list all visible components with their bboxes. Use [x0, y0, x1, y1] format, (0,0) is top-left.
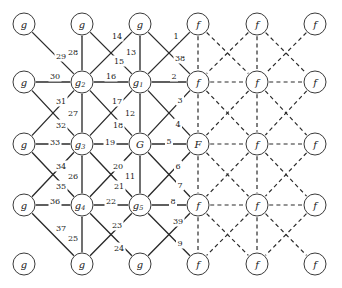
graph-node-G[interactable]: G [129, 133, 151, 155]
edge-label-layer: 2138345678939111213141516171819202122232… [49, 31, 187, 254]
edge-label: 26 [68, 172, 78, 181]
graph-node-g[interactable]: g [71, 13, 93, 35]
graph-node-f[interactable]: f [187, 13, 209, 35]
edge-label: 17 [112, 97, 122, 106]
edge-label: 27 [68, 109, 78, 118]
edge-label: 36 [50, 197, 60, 206]
graph-node-f[interactable]: f [304, 13, 326, 35]
edge-label: 15 [114, 57, 124, 66]
graph-node-f[interactable]: f [187, 253, 209, 275]
graph-figure: gggfffgg2g1fffgg3GFffgg4g5fffgggfff 2138… [0, 0, 342, 288]
edge-label: 32 [56, 121, 66, 130]
graph-node-g[interactable]: g1 [129, 71, 151, 93]
graph-node-f[interactable]: f [187, 194, 209, 216]
edge-label: 28 [68, 48, 78, 57]
edge-label: 5 [166, 137, 171, 146]
edge-label: 8 [170, 197, 175, 206]
graph-node-f[interactable]: f [246, 13, 268, 35]
node-label: g [21, 19, 27, 30]
graph-node-g[interactable]: g [129, 13, 151, 35]
edge-label: 38 [175, 54, 185, 63]
node-label: F [194, 139, 203, 150]
edge-label: 9 [177, 239, 182, 248]
edge-label: 2 [171, 72, 176, 81]
node-label: g [21, 259, 27, 270]
edge-label: 20 [113, 162, 123, 171]
graph-node-g[interactable]: g [13, 13, 35, 35]
edge-label: 35 [56, 182, 66, 191]
node-label: g [21, 139, 27, 150]
graph-node-g[interactable]: g5 [129, 194, 151, 216]
node-label: g [79, 259, 85, 270]
graph-node-g[interactable]: g [13, 71, 35, 93]
graph-node-f[interactable]: f [246, 71, 268, 93]
edge-label: 13 [126, 48, 136, 57]
edge-label: 1 [173, 32, 178, 41]
graph-node-g[interactable]: g4 [71, 194, 93, 216]
edge-label: 19 [105, 138, 115, 147]
graph-node-f[interactable]: f [246, 194, 268, 216]
edge-label: 23 [112, 221, 122, 230]
graph-node-f[interactable]: f [304, 194, 326, 216]
graph-node-f[interactable]: f [246, 253, 268, 275]
node-label: g [21, 200, 27, 211]
edge-label: 21 [114, 182, 124, 191]
graph-node-F[interactable]: F [187, 133, 209, 155]
graph-node-f[interactable]: f [304, 253, 326, 275]
node-label: g [137, 259, 143, 270]
graph-node-f[interactable]: f [304, 133, 326, 155]
edge-label: 34 [56, 162, 66, 171]
graph-node-g[interactable]: g [71, 253, 93, 275]
edge-label: 18 [113, 121, 123, 130]
edge-label: 12 [125, 109, 135, 118]
edge-label: 29 [56, 52, 66, 61]
node-label: g [21, 77, 27, 88]
node-label: g [137, 19, 143, 30]
edge-label: 22 [106, 197, 116, 206]
edge-label: 4 [175, 120, 180, 129]
edge-label: 39 [173, 217, 183, 226]
edge-label: 37 [56, 224, 66, 233]
graph-node-f[interactable]: f [304, 71, 326, 93]
edge-label: 25 [68, 234, 78, 243]
edge-label: 33 [50, 138, 60, 147]
edge-label: 6 [175, 162, 180, 171]
graph-node-g[interactable]: g2 [71, 71, 93, 93]
graph-node-g[interactable]: g [13, 133, 35, 155]
graph-node-g[interactable]: g3 [71, 133, 93, 155]
graph-node-f[interactable]: f [187, 71, 209, 93]
node-label: g [79, 19, 85, 30]
edge-label: 14 [112, 32, 122, 41]
edge-label: 7 [177, 181, 182, 190]
edge-label: 31 [56, 97, 66, 106]
edge-label: 16 [106, 72, 116, 81]
node-label: G [136, 139, 144, 150]
edge-label: 30 [50, 72, 60, 81]
graph-canvas: gggfffgg2g1fffgg3GFffgg4g5fffgggfff 2138… [0, 0, 342, 288]
graph-node-g[interactable]: g [13, 253, 35, 275]
edge-label: 24 [114, 244, 124, 253]
graph-node-f[interactable]: f [246, 133, 268, 155]
graph-node-g[interactable]: g [13, 194, 35, 216]
edge-label: 11 [125, 172, 135, 181]
edge-label: 3 [177, 96, 182, 105]
graph-node-g[interactable]: g [129, 253, 151, 275]
